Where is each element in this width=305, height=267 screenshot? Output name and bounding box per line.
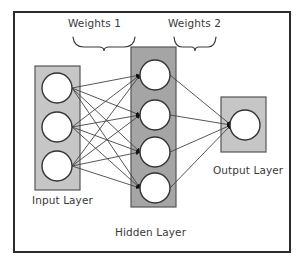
node-hidden-4 [140,173,170,203]
node-hidden-2 [140,100,170,130]
input-layer-nodes [42,73,72,181]
node-input-3 [42,151,72,181]
node-hidden-3 [140,137,170,167]
brace-weights-1 [73,37,135,51]
weights-1-label: Weights 1 [68,17,121,29]
edge-i2-h3 [72,127,140,152]
brace-weights-2 [174,37,216,51]
edge-h4-o1 [170,125,231,188]
edge-i1-h4 [72,88,140,188]
node-input-1 [42,73,72,103]
edge-i3-h2 [72,115,140,166]
hidden-layer-label: Hidden Layer [115,226,186,238]
diagram-canvas: Weights 1 Weights 2 Input Layer Hidden L… [0,0,305,267]
edge-i1-h1 [72,75,140,88]
weights-2-label: Weights 2 [168,17,221,29]
edge-i3-h3 [72,152,140,166]
edge-i2-h4 [72,127,140,188]
node-hidden-1 [140,60,170,90]
input-layer-label: Input Layer [32,194,93,206]
node-output-1 [230,110,260,140]
node-input-2 [42,112,72,142]
weights-1-edges [72,75,140,188]
edge-i3-h1 [72,75,140,166]
output-layer-label: Output Layer [213,164,283,176]
edge-i2-h1 [72,75,140,127]
edge-i3-h4 [72,166,140,188]
output-layer-nodes [230,110,260,140]
